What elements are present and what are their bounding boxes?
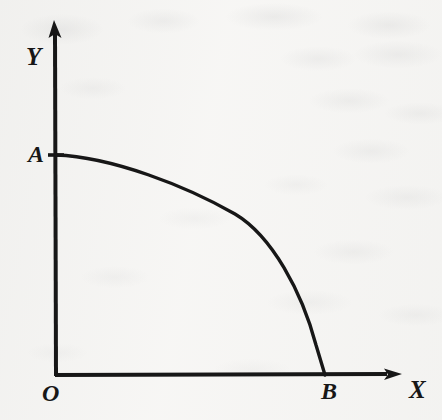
y-axis-line <box>55 34 56 376</box>
y-axis-label: Y <box>26 44 41 69</box>
origin-label: O <box>42 381 59 405</box>
curve-ab <box>56 155 325 375</box>
point-b-label: B <box>321 379 337 403</box>
point-a-label: A <box>28 142 44 166</box>
figure-canvas: Y A O B X <box>0 0 442 420</box>
x-axis-line <box>55 374 387 375</box>
x-axis-label: X <box>409 377 426 402</box>
coordinate-diagram <box>0 0 442 420</box>
